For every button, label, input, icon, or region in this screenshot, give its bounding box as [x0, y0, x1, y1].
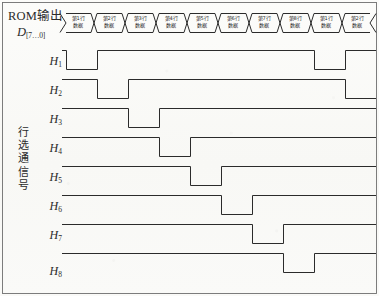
rom-cell-data: 数据 [250, 22, 278, 29]
signal-label-h1: H1 [40, 55, 62, 68]
rom-cell-data: 数据 [188, 22, 216, 29]
rom-cell-line: 第1行 [64, 15, 92, 22]
rom-cell-data: 数据 [64, 22, 92, 29]
waveform-h6 [62, 196, 376, 215]
signal-index: 1 [58, 60, 62, 69]
rom-cell-data: 数据 [281, 22, 309, 29]
signal-name: H [50, 199, 59, 213]
signal-name: H [50, 141, 59, 155]
rom-cell-line: 第5行 [188, 15, 216, 22]
waveform-h4 [62, 138, 376, 157]
waveform-h7 [62, 225, 376, 244]
signal-index: 2 [58, 89, 62, 98]
rom-cell-line: 第6行 [219, 15, 247, 22]
signal-name: H [50, 112, 59, 126]
rom-cell-data: 数据 [95, 22, 123, 29]
rom-cell-6: 第6行 数据 [219, 15, 247, 28]
rom-cell-line: 第4行 [157, 15, 185, 22]
rom-bus-name: D [17, 25, 26, 39]
rom-cell-data: 数据 [157, 22, 185, 29]
rom-bus-label: D[7…0] [17, 26, 45, 39]
signal-label-h2: H2 [40, 84, 62, 97]
signal-index: 7 [58, 234, 62, 243]
signal-name: H [50, 228, 59, 242]
rom-cell-line: 第2行 [343, 15, 371, 22]
signal-label-h7: H7 [40, 229, 62, 242]
timing-diagram-figure: ROM输出 D[7…0] 第1行 数据 第2行 数据 第3行 数据 第4行 数据… [0, 0, 379, 296]
rom-cell-3: 第3行 数据 [126, 15, 154, 28]
signal-label-h8: H8 [40, 265, 62, 278]
rom-cell-line: 第8行 [281, 15, 309, 22]
rom-bus-range: [7…0] [26, 31, 45, 40]
rom-cell-1: 第1行 数据 [64, 15, 92, 28]
rom-cell-8: 第8行 数据 [281, 15, 309, 28]
signal-name: H [50, 264, 59, 278]
signal-index: 8 [58, 270, 62, 279]
signal-index: 4 [58, 147, 62, 156]
waveform-h5 [62, 167, 376, 186]
rom-cell-9: 第1行 数据 [312, 15, 340, 28]
signal-index: 5 [58, 176, 62, 185]
rom-cell-data: 数据 [126, 22, 154, 29]
waveform-h8 [62, 254, 376, 273]
rom-cell-4: 第4行 数据 [157, 15, 185, 28]
signal-label-h5: H5 [40, 171, 62, 184]
row-strobe-group-label: 行选通信号 [13, 126, 28, 192]
signal-name: H [50, 83, 59, 97]
signal-name: H [50, 54, 59, 68]
waveform-h3 [62, 109, 376, 128]
rom-cell-line: 第2行 [95, 15, 123, 22]
rom-cell-data: 数据 [343, 22, 371, 29]
waveform-h2 [62, 80, 376, 99]
rom-cell-line: 第7行 [250, 15, 278, 22]
signal-label-h6: H6 [40, 200, 62, 213]
rom-cell-data: 数据 [219, 22, 247, 29]
rom-cell-line: 第1行 [312, 15, 340, 22]
rom-cell-2: 第2行 数据 [95, 15, 123, 28]
rom-cell-data: 数据 [312, 22, 340, 29]
signal-index: 3 [58, 118, 62, 127]
rom-cell-10: 第2行 数据 [343, 15, 371, 28]
waveform-h1 [62, 51, 376, 70]
signal-label-h3: H3 [40, 113, 62, 126]
signal-label-h4: H4 [40, 142, 62, 155]
rom-output-label: ROM输出 [8, 10, 63, 23]
rom-cell-5: 第5行 数据 [188, 15, 216, 28]
signal-name: H [50, 170, 59, 184]
signal-index: 6 [58, 205, 62, 214]
rom-cell-7: 第7行 数据 [250, 15, 278, 28]
rom-cell-line: 第3行 [126, 15, 154, 22]
